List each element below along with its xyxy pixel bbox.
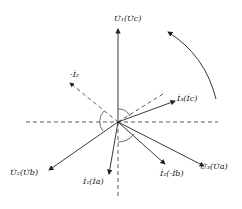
angle-arc-bottom	[118, 134, 134, 142]
u3-phasor	[118, 122, 204, 166]
rotation-arrow-icon	[168, 32, 216, 99]
i1-phasor	[109, 122, 118, 174]
i1-label: İ₁(İa)	[83, 177, 104, 186]
phasor-diagram: U̇₁(U̇c) -İ₂ İ₃(İc) U̇₂(U̇b) İ₁(İa) İ₂(-…	[0, 0, 242, 209]
angle-arc-top	[118, 109, 130, 116]
i3-label: İ₃(İc)	[177, 94, 197, 103]
u3-label: U̇₃(U̇a)	[200, 162, 228, 171]
u2-phasor	[49, 122, 118, 170]
i2-phasor	[118, 122, 165, 164]
neg-i2-label: -İ₂	[70, 70, 79, 79]
i2-label: İ₂(-İb)	[160, 169, 184, 178]
angle-arc-left	[100, 111, 104, 131]
neg-i2-phasor	[70, 83, 118, 122]
u1-label: U̇₁(U̇c)	[114, 14, 141, 23]
u2-label: U̇₂(U̇b)	[10, 168, 38, 177]
phasor-svg	[0, 0, 242, 209]
